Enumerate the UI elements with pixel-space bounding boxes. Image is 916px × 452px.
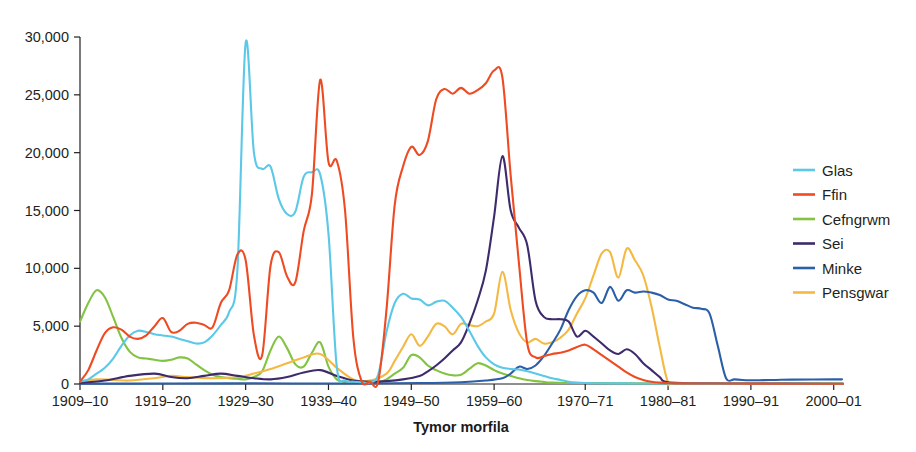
series-line-glas <box>80 40 843 383</box>
x-tick-label: 1959–60 <box>466 393 522 409</box>
legend-label-sei: Sei <box>822 235 844 252</box>
legend-label-ffin: Ffin <box>822 186 847 203</box>
y-tick-label: 20,000 <box>25 145 69 161</box>
x-axis-tick-labels: 1909–101919–201929–301939–401949–501959–… <box>52 393 862 409</box>
x-tick-label: 1919–20 <box>135 393 191 409</box>
x-tick-label: 1980–81 <box>640 393 696 409</box>
y-tick-label: 5,000 <box>33 318 69 334</box>
y-tick-label: 30,000 <box>25 29 69 45</box>
legend-label-glas: Glas <box>822 162 853 179</box>
legend-label-minke: Minke <box>822 260 862 277</box>
x-tick-label: 1949–50 <box>383 393 439 409</box>
whaling-catch-line-chart: (partially cropped header text) 05,00010… <box>0 0 916 452</box>
series-line-minke <box>80 287 842 384</box>
y-axis-tick-labels: 05,00010,00015,00020,00025,00030,000 <box>25 29 69 392</box>
x-axis-title: Tymor morfila <box>413 419 510 435</box>
x-tick-label: 1929–30 <box>217 393 273 409</box>
y-tick-label: 10,000 <box>25 260 69 276</box>
chart-plot-area: 05,00010,00015,00020,00025,00030,000 190… <box>0 0 916 452</box>
y-tick-label: 25,000 <box>25 87 69 103</box>
series-line-ffin <box>80 67 843 387</box>
legend-label-pensgwar: Pensgwar <box>822 284 889 301</box>
series-line-cefngrwm <box>80 290 843 384</box>
x-tick-label: 1909–10 <box>52 393 108 409</box>
x-tick-label: 1939–40 <box>300 393 356 409</box>
x-axis-ticks <box>80 384 834 390</box>
legend-label-cefngrwm: Cefngrwm <box>822 211 890 228</box>
y-tick-label: 0 <box>61 376 69 392</box>
y-axis-ticks <box>74 37 80 384</box>
x-axis-group: 1909–101919–201929–301939–401949–501959–… <box>52 384 862 409</box>
y-axis-group: 05,00010,00015,00020,00025,00030,000 <box>25 29 80 392</box>
x-tick-label: 1990–91 <box>723 393 779 409</box>
data-series-group <box>80 40 843 387</box>
x-tick-label: 1970–71 <box>557 393 613 409</box>
legend: GlasFfinCefngrwmSeiMinkePensgwar <box>793 162 890 302</box>
series-line-sei <box>80 156 843 384</box>
x-tick-label: 2000–01 <box>805 393 861 409</box>
y-tick-label: 15,000 <box>25 203 69 219</box>
